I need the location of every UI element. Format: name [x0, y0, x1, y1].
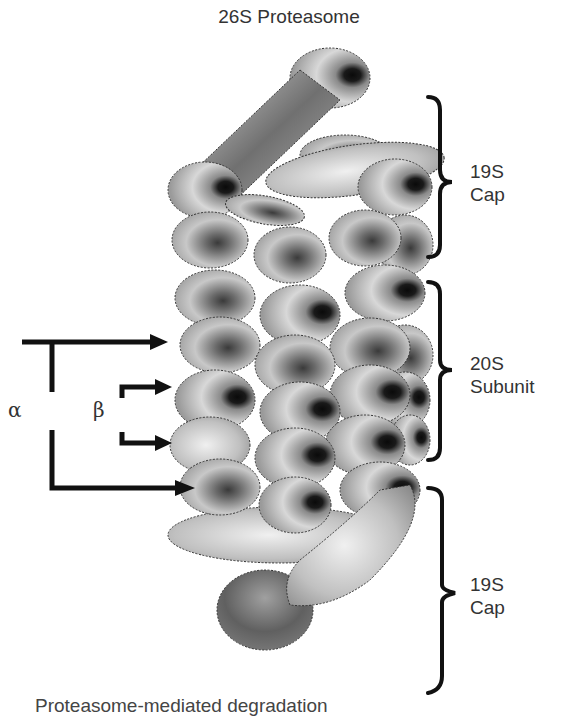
label-bottom-cap-line2: Cap — [470, 596, 505, 619]
brace-core — [428, 282, 452, 460]
label-bottom-cap: 19S Cap — [470, 573, 505, 619]
beta-label: β — [93, 398, 105, 422]
label-core-line2: Subunit — [470, 375, 534, 398]
label-top-cap: 19S Cap — [470, 160, 505, 206]
label-core-line1: 20S — [470, 352, 534, 375]
label-top-cap-line2: Cap — [470, 183, 505, 206]
brace-bottom-cap — [428, 488, 455, 693]
brace-top-cap — [428, 97, 452, 257]
beta-pointer — [122, 387, 155, 443]
label-core: 20S Subunit — [470, 352, 534, 398]
label-bottom-cap-line1: 19S — [470, 573, 505, 596]
alpha-label: α — [8, 398, 22, 422]
caption: Proteasome-mediated degradation — [35, 695, 328, 717]
label-top-cap-line1: 19S — [470, 160, 505, 183]
